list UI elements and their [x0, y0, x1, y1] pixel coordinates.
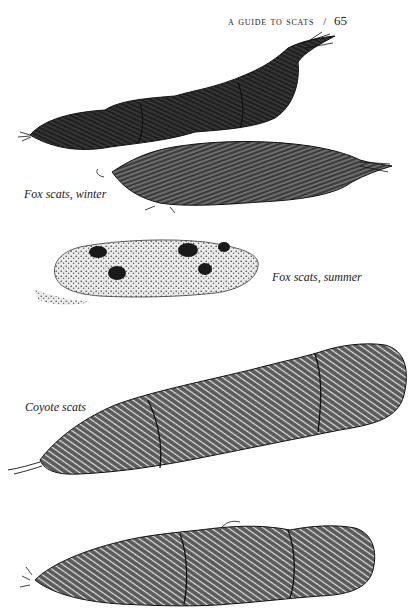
caption-fox-summer: Fox scats, summer [272, 270, 362, 285]
berry-icon [89, 246, 107, 258]
scat-illustrations [0, 0, 416, 616]
fox-winter-scat-upper [18, 32, 335, 149]
caption-coyote: Coyote scats [25, 400, 86, 415]
fox-winter-scat-lower [97, 142, 392, 214]
bottom-scat [20, 521, 375, 606]
fox-summer-scat [35, 240, 258, 305]
berry-icon [108, 266, 126, 280]
berry-icon [218, 242, 230, 252]
caption-fox-winter: Fox scats, winter [24, 187, 106, 202]
berry-icon [198, 263, 212, 275]
berry-icon [178, 243, 198, 257]
